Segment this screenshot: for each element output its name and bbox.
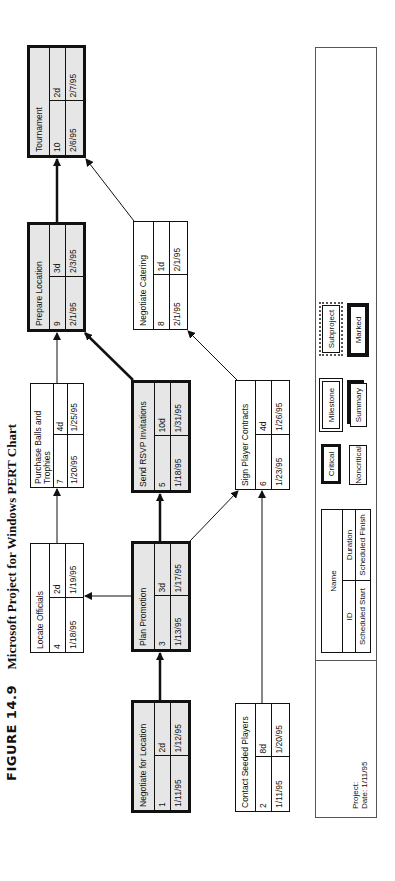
task-node-send-rsvp-invitations[interactable]: Send RSVP Invitations 5 10d 1/18/95 1/31… <box>131 380 191 493</box>
key-duration: Duration <box>343 510 356 581</box>
task-finish: 1/25/95 <box>68 384 83 436</box>
task-start: 1/20/95 <box>68 436 83 488</box>
project-info: Project: Date: 1/11/95 <box>351 762 369 809</box>
legend-marked-swatch: Marked <box>347 303 369 357</box>
task-name: Purchase Balls and Trophies <box>31 384 54 487</box>
task-id: 4 <box>50 598 66 652</box>
task-finish: 1/20/95 <box>272 704 289 758</box>
task-node-sign-player-contracts[interactable]: Sign Player Contracts 6 4d 1/23/95 1/26/… <box>235 380 290 490</box>
task-finish: 2/1/95 <box>170 222 187 276</box>
task-duration: 3d <box>50 225 66 277</box>
task-duration: 4d <box>54 384 68 436</box>
key-id: ID <box>343 581 356 652</box>
task-name: Sign Player Contracts <box>236 381 256 489</box>
task-start: 2/1/95 <box>66 277 83 329</box>
project-label: Project: <box>351 762 360 809</box>
task-finish: 1/19/95 <box>66 544 83 598</box>
legend-noncritical-swatch: Noncritical <box>349 445 367 485</box>
task-name: Prepare Location <box>30 225 50 329</box>
task-name: Negotiate Catering <box>134 222 154 329</box>
legend-subproject-swatch: Subproject <box>322 305 340 353</box>
task-start: 1/11/95 <box>171 757 188 811</box>
task-id: 7 <box>54 436 68 488</box>
task-node-negotiate-catering[interactable]: Negotiate Catering 8 1d 2/1/95 2/1/95 <box>133 221 188 330</box>
task-finish: 1/17/95 <box>171 544 188 597</box>
task-id: 10 <box>50 102 66 156</box>
task-start: 1/23/95 <box>272 435 289 489</box>
task-duration: 2d <box>50 544 66 598</box>
task-id: 3 <box>155 597 171 650</box>
key-name: Name <box>322 510 343 652</box>
task-duration: 3d <box>155 544 171 597</box>
task-id: 6 <box>256 435 272 489</box>
task-node-plan-promotion[interactable]: Plan Promotion 3 3d 1/13/95 1/17/95 <box>131 541 191 652</box>
legend-field-key: Name ID Duration Scheduled Start Schedul… <box>321 509 371 653</box>
task-name: Locate Officials <box>31 544 50 652</box>
task-finish: 1/12/95 <box>171 703 188 757</box>
task-duration: 4d <box>256 381 272 435</box>
task-name: Tournament <box>30 48 50 155</box>
task-name: Plan Promotion <box>134 544 155 649</box>
project-date: Date: 1/11/95 <box>360 762 369 809</box>
task-duration: 10d <box>155 383 171 437</box>
task-node-tournament[interactable]: Tournament 10 2d 2/6/95 2/7/95 <box>27 45 86 158</box>
task-name: Contact Seeded Players <box>236 704 256 811</box>
task-node-negotiate-for-location[interactable]: Negotiate for Location 1 2d 1/11/95 1/12… <box>131 700 191 813</box>
task-id: 1 <box>155 757 171 811</box>
task-finish: 2/3/95 <box>66 225 83 277</box>
task-start: 1/11/95 <box>272 758 289 812</box>
key-scheduled-finish: Scheduled Finish <box>356 510 370 581</box>
task-finish: 1/31/95 <box>171 383 188 437</box>
task-node-contact-seeded-players[interactable]: Contact Seeded Players 2 8d 1/11/95 1/20… <box>235 703 290 812</box>
task-start: 1/18/95 <box>66 598 83 652</box>
task-node-prepare-location[interactable]: Prepare Location 9 3d 2/1/95 2/3/95 <box>27 222 86 332</box>
link-3-4 <box>80 652 145 681</box>
link-5-9 <box>85 333 133 380</box>
task-start: 2/1/95 <box>170 276 187 330</box>
task-id: 8 <box>154 276 170 330</box>
task-duration: 2d <box>155 703 171 757</box>
legend-panel: Project: Date: 1/11/95 Name ID Duration … <box>315 47 377 818</box>
task-finish: 2/7/95 <box>66 48 83 102</box>
task-name: Send RSVP Invitations <box>134 383 155 490</box>
task-start: 1/18/95 <box>171 437 188 491</box>
task-duration: 1d <box>154 222 170 276</box>
key-scheduled-start: Scheduled Start <box>356 581 370 652</box>
task-start: 2/6/95 <box>66 102 83 156</box>
task-finish: 1/26/95 <box>272 381 289 435</box>
legend-milestone-swatch: Milestone <box>322 381 340 429</box>
task-duration: 2d <box>50 48 66 102</box>
task-duration: 8d <box>256 704 272 758</box>
task-id: 9 <box>50 277 66 329</box>
task-id: 5 <box>155 437 171 491</box>
link-3-6 <box>190 491 238 541</box>
pert-chart-page: FIGURE 14.9 Microsoft Project for Window… <box>0 0 395 881</box>
task-node-locate-officials[interactable]: Locate Officials 4 2d 1/18/95 1/19/95 <box>30 543 84 653</box>
task-name: Negotiate for Location <box>134 703 155 810</box>
link-6-8 <box>188 331 237 380</box>
task-id: 2 <box>256 758 272 812</box>
task-node-purchase-balls-and-trophies[interactable]: Purchase Balls and Trophies 7 4d 1/20/95… <box>30 383 84 488</box>
legend-summary-swatch: Summary <box>350 383 367 427</box>
legend-critical-swatch: Critical <box>321 444 341 484</box>
link-8-10 <box>86 159 134 221</box>
legend-divider <box>316 660 376 661</box>
task-start: 1/13/95 <box>171 597 188 650</box>
